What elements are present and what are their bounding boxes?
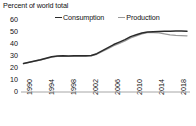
plot-area [0,0,196,126]
chart-container: Percent of world total Consumption Produ… [0,0,196,126]
series-line-production [24,33,188,64]
